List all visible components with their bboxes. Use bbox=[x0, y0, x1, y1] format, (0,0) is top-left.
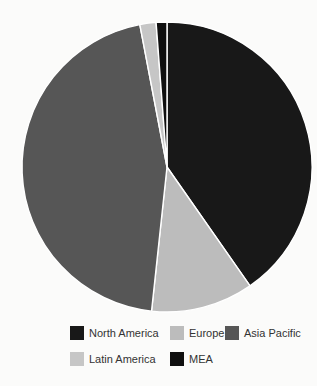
pie-chart bbox=[0, 0, 317, 386]
pie-chart-page: North America Europe Asia Pacific Latin … bbox=[0, 0, 317, 386]
pie-slice-asia-pacific bbox=[22, 25, 167, 312]
